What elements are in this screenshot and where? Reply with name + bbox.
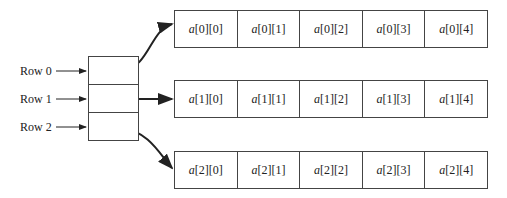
array-cell: a[1][0] [175, 81, 237, 117]
array-cell: a[2][3] [362, 152, 425, 188]
array-cell: a[1][2] [299, 81, 362, 117]
array-row-0: a[0][0] a[0][1] a[0][2] a[0][3] a[0][4] [174, 10, 488, 48]
array-cell: a[2][1] [237, 152, 300, 188]
pointer-slot-2 [88, 112, 139, 141]
row-label-2: Row 2 [20, 120, 52, 134]
array-cell: a[0][1] [237, 11, 300, 47]
array-cell: a[0][0] [175, 11, 237, 47]
array-row-1: a[1][0] a[1][1] a[1][2] a[1][3] a[1][4] [174, 80, 488, 118]
array-cell: a[1][4] [424, 81, 487, 117]
pointer-slot-0 [88, 56, 139, 85]
row-label-0: Row 0 [20, 64, 52, 78]
array-cell: a[1][3] [362, 81, 425, 117]
pointer-slot-1 [88, 84, 139, 113]
array-cell: a[1][1] [237, 81, 300, 117]
array-cell: a[2][4] [424, 152, 487, 188]
row-label-1: Row 1 [20, 92, 52, 106]
array-row-2: a[2][0] a[2][1] a[2][2] a[2][3] a[2][4] [174, 151, 488, 189]
array-cell: a[0][3] [362, 11, 425, 47]
array-cell: a[2][2] [299, 152, 362, 188]
array-cell: a[0][2] [299, 11, 362, 47]
array-cell: a[2][0] [175, 152, 237, 188]
array-cell: a[0][4] [424, 11, 487, 47]
